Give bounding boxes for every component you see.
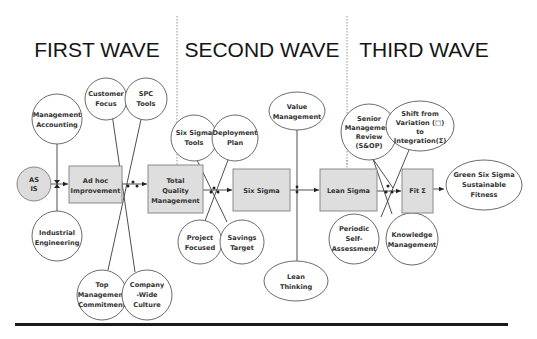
svg-text:Integration(Σ): Integration(Σ) [394, 137, 446, 145]
svg-text:Lean: Lean [287, 273, 305, 281]
svg-text:Tools: Tools [137, 100, 156, 108]
node-knowledge-management: Knowledge Management [386, 213, 438, 265]
svg-text:Management: Management [78, 291, 127, 299]
quality-evolution-diagram: FIRST WAVE SECOND WAVE THIRD WAVE [0, 0, 537, 339]
svg-text:Self-: Self- [346, 235, 363, 243]
node-savings-target: Savings Target [220, 220, 264, 264]
svg-text:Management: Management [388, 241, 437, 249]
svg-text:IS: IS [30, 185, 37, 193]
svg-text:Accounting: Accounting [36, 121, 78, 129]
wave-title-third: THIRD WAVE [359, 38, 489, 61]
node-deployment-plan: Deployment Plan [212, 115, 258, 161]
junction-dot [217, 191, 220, 194]
svg-text:Project: Project [187, 234, 213, 242]
svg-text:Thinking: Thinking [280, 283, 312, 291]
junction-dot [127, 185, 130, 188]
svg-text:AS: AS [29, 176, 39, 184]
node-lean-thinking: Lean Thinking [264, 261, 328, 301]
svg-text:Savings: Savings [227, 234, 256, 242]
junction-arrow-up [54, 184, 60, 188]
svg-text:Variation (□): Variation (□) [396, 119, 444, 127]
svg-text:Fitness: Fitness [471, 191, 498, 199]
node-management-accounting: Management Accounting [32, 94, 82, 144]
svg-text:Improvement: Improvement [71, 187, 121, 195]
svg-text:Total: Total [166, 177, 184, 185]
svg-text:Target: Target [230, 244, 254, 252]
junction-dot [136, 185, 139, 188]
node-top-management-commitment: Top Management Commitment [77, 270, 127, 320]
svg-text:Senior: Senior [357, 115, 382, 123]
wave-title-second: SECOND WAVE [184, 38, 339, 61]
junction-arrow-down [54, 180, 60, 184]
wave-title-first: FIRST WAVE [34, 38, 160, 61]
svg-text:SPC: SPC [139, 90, 154, 98]
svg-text:Focus: Focus [95, 100, 116, 108]
svg-text:Green Six Sigma: Green Six Sigma [453, 171, 514, 179]
node-ad-hoc-improvement: Ad hoc Improvement [69, 166, 122, 203]
svg-text:Company: Company [130, 281, 165, 289]
svg-text:to: to [416, 128, 424, 136]
svg-text:Quality: Quality [162, 187, 189, 195]
junction-dot [210, 191, 213, 194]
svg-text:Plan: Plan [227, 139, 244, 147]
svg-text:Sustainable: Sustainable [462, 181, 506, 189]
svg-text:Value: Value [287, 103, 308, 111]
node-green-six-sigma: Green Six Sigma Sustainable Fitness [446, 160, 522, 210]
svg-text:-Wide: -Wide [136, 291, 158, 299]
node-as-is: AS IS [17, 167, 51, 201]
junction-dot [391, 191, 394, 194]
svg-text:Assessment: Assessment [332, 245, 376, 253]
svg-text:(S&OP): (S&OP) [356, 142, 383, 150]
node-six-sigma: Six Sigma [233, 169, 290, 211]
svg-text:Management: Management [151, 197, 200, 205]
node-industrial-engineering: Industrial Engineering [32, 211, 82, 261]
node-six-sigma-tools: Six Sigma Tools [171, 115, 217, 161]
node-lean-sigma: Lean Sigma [320, 169, 377, 211]
svg-text:Review: Review [356, 133, 383, 141]
link-plan-project [205, 160, 228, 221]
svg-text:Management: Management [273, 113, 322, 121]
svg-text:Deployment: Deployment [213, 129, 258, 137]
svg-text:Tools: Tools [185, 139, 204, 147]
svg-text:Lean Sigma: Lean Sigma [327, 187, 370, 195]
svg-text:Periodic: Periodic [339, 225, 369, 233]
node-company-wide-culture: Company -Wide Culture [122, 270, 172, 320]
svg-text:Ad hoc: Ad hoc [83, 177, 108, 185]
node-spc-tools: SPC Tools [125, 78, 167, 120]
svg-text:Culture: Culture [133, 301, 161, 309]
svg-text:Customer: Customer [88, 90, 124, 98]
svg-text:Focused: Focused [185, 244, 216, 252]
svg-text:Fit Σ: Fit Σ [409, 187, 426, 195]
svg-text:Top: Top [96, 281, 109, 289]
svg-text:Knowledge: Knowledge [391, 231, 433, 239]
node-customer-focus: Customer Focus [85, 78, 127, 120]
svg-text:Management: Management [33, 111, 82, 119]
junction-dot [296, 186, 299, 189]
junction-dot [213, 187, 216, 190]
node-shift-from-variation: Shift from Variation (□) to Integration(… [386, 101, 454, 151]
junction-dot [385, 191, 388, 194]
svg-text:Shift from: Shift from [401, 110, 439, 118]
node-periodic-self-assessment: Periodic Self- Assessment [329, 214, 379, 264]
junction-dot [387, 185, 390, 188]
svg-text:Engineering: Engineering [35, 239, 80, 247]
node-total-quality-management: Total Quality Management [148, 165, 203, 213]
bottom-rule [15, 323, 508, 326]
junction-dot [132, 181, 135, 184]
node-project-focused: Project Focused [178, 220, 222, 264]
node-fit-sigma: Fit Σ [402, 169, 433, 213]
svg-text:Six Sigma: Six Sigma [243, 187, 280, 195]
node-value-management: Value Management [269, 92, 325, 130]
svg-text:Six Sigma: Six Sigma [176, 129, 213, 137]
svg-text:Industrial: Industrial [39, 229, 75, 237]
junction-dot [296, 191, 299, 194]
svg-text:Commitment: Commitment [78, 301, 126, 309]
